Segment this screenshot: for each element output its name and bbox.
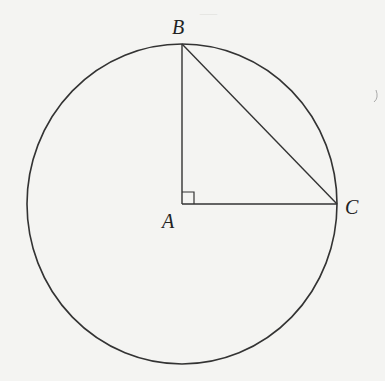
segment-BC <box>182 44 337 204</box>
right-angle-marker <box>182 192 194 204</box>
stray-mark <box>374 90 377 102</box>
geometry-figure: — B A C <box>0 0 385 381</box>
label-C: C <box>345 196 359 218</box>
label-B: B <box>172 16 184 38</box>
bleed-through-text: — <box>199 3 218 22</box>
label-A: A <box>160 210 175 232</box>
